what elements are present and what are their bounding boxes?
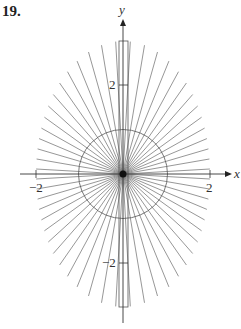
origin-dot (120, 171, 127, 178)
xtick-pos-label: 2 (206, 180, 213, 195)
ytick-pos-label: 2 (109, 77, 116, 92)
ray-line (48, 106, 123, 174)
ray-line (53, 95, 123, 175)
ray-line (123, 95, 193, 175)
ray-line (123, 106, 198, 174)
y-axis-arrow-icon (120, 19, 126, 26)
ray-line (53, 174, 123, 254)
ray-line (123, 174, 193, 254)
x-axis-label: x (233, 166, 240, 181)
y-axis-label: y (117, 2, 125, 17)
ray-line (123, 174, 198, 242)
ytick-neg-label: −2 (102, 255, 116, 270)
xtick-neg-label: −2 (29, 180, 43, 195)
x-axis-arrow-icon (225, 171, 232, 177)
ray-plot: −2 2 2 −2 x y (0, 0, 241, 329)
ray-line (48, 174, 123, 242)
